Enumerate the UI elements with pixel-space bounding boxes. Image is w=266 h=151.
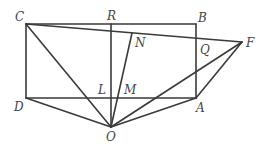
segment-AO bbox=[111, 98, 196, 127]
label-N: N bbox=[134, 36, 146, 50]
label-F: F bbox=[245, 36, 255, 50]
label-R: R bbox=[106, 9, 116, 23]
label-L: L bbox=[97, 83, 106, 97]
label-M: M bbox=[123, 83, 137, 97]
label-O: O bbox=[106, 130, 116, 144]
label-A: A bbox=[195, 101, 205, 115]
label-B: B bbox=[197, 11, 207, 25]
label-C: C bbox=[15, 10, 24, 24]
segment-NO bbox=[111, 33, 132, 127]
segment-CF bbox=[26, 24, 242, 42]
label-Q: Q bbox=[200, 43, 210, 57]
geometry-diagram: C R B N Q F D L M A O bbox=[0, 0, 266, 151]
segment-CO bbox=[26, 24, 111, 127]
label-D: D bbox=[13, 100, 24, 114]
